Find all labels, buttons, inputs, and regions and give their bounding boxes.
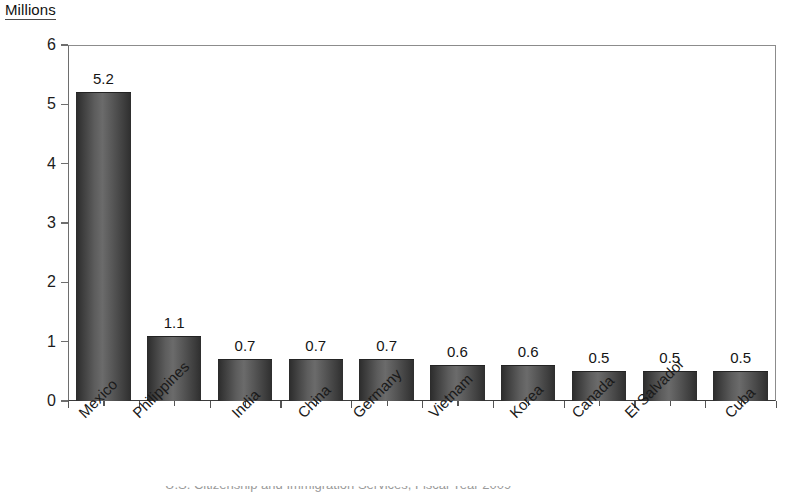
bar-slot: 0.5 [643,45,698,401]
bar-value-label: 0.7 [376,337,397,354]
axis-unit-title: Millions [5,1,56,20]
y-axis-tick-label: 3 [47,213,56,233]
bar-value-label: 0.7 [305,337,326,354]
bar[interactable] [76,92,131,401]
bar-slot: 0.5 [572,45,627,401]
bar-slot: 0.6 [501,45,556,401]
bar-slot: 0.5 [713,45,768,401]
bar-value-label: 1.1 [164,314,185,331]
bar-slot: 0.7 [218,45,273,401]
bar-value-label: 0.6 [518,343,539,360]
bars-layer: 5.21.10.70.70.70.60.60.50.50.5 [68,45,776,401]
bar-slot: 0.7 [289,45,344,401]
y-axis: 6543210 [0,45,68,401]
y-axis-tick-label: 2 [47,272,56,292]
footer-caption-clip: U.S. Citizenship and Immigration Service… [0,486,787,493]
y-axis-tick-mark [61,282,68,283]
y-axis-tick-mark [61,341,68,342]
bar-slot: 0.6 [430,45,485,401]
y-axis-tick-label: 6 [47,35,56,55]
y-axis-tick-mark [61,104,68,105]
bar-value-label: 0.7 [235,337,256,354]
y-axis-tick-mark [61,44,68,45]
bar-slot: 0.7 [359,45,414,401]
y-axis-tick-label: 4 [47,154,56,174]
bar-value-label: 0.6 [447,343,468,360]
bar-value-label: 5.2 [93,70,114,87]
y-axis-tick-label: 1 [47,332,56,352]
footer-caption: U.S. Citizenship and Immigration Service… [165,486,511,492]
y-axis-tick-label: 5 [47,94,56,114]
y-axis-tick-mark [61,222,68,223]
y-axis-tick-mark [61,163,68,164]
bar-slot: 1.1 [147,45,202,401]
bar-value-label: 0.5 [589,349,610,366]
x-axis-labels: MexicoPhilippinesIndiaChinaGermanyVietna… [0,401,787,493]
bar-value-label: 0.5 [730,349,751,366]
bar-slot: 5.2 [76,45,131,401]
